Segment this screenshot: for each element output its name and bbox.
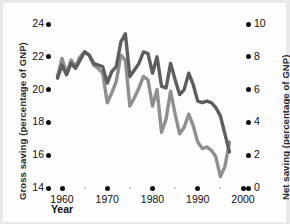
series-line-gross-saving [57,34,229,152]
chart-figure: Gross saving (percentage of GNP) Net sav… [0,0,290,224]
chart-plot-area [0,0,290,224]
series-line-net-saving [57,52,229,177]
